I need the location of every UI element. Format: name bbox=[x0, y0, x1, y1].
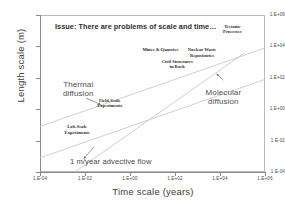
y-tick-2 bbox=[36, 78, 40, 79]
y-tick-label-3: 1.E+00 bbox=[251, 106, 285, 112]
y-tick-0 bbox=[36, 15, 40, 16]
y-tick-label-5: 1.E-04 bbox=[251, 169, 285, 175]
annotation-tectonic-processes: Tectonic Processes bbox=[206, 24, 258, 34]
annotation-1-m-year-advective-flow: 1 m/year advective flow bbox=[70, 157, 152, 166]
x-tick-label-3: 1.E+02 bbox=[155, 176, 195, 182]
y-axis-line bbox=[40, 15, 41, 173]
y-tick-3 bbox=[36, 109, 40, 110]
x-tick-label-1: 1.E-02 bbox=[65, 176, 105, 182]
chart-title: Issue: There are problems of scale and t… bbox=[55, 22, 217, 31]
annotation-molecular-diffusion: Molecular diffusion bbox=[195, 88, 251, 106]
chart-figure: 1.E+061.E+041.E+021.E+001.E-021.E-04 1.E… bbox=[0, 0, 285, 203]
y-tick-4 bbox=[36, 141, 40, 142]
x-axis-line bbox=[40, 172, 266, 173]
annotation-lab-scale-experiments: Lab-Scale Experiments bbox=[51, 124, 103, 134]
y-tick-label-4: 1.E-02 bbox=[251, 138, 285, 144]
y-tick-label-0: 1.E+06 bbox=[251, 12, 285, 18]
y-tick-1 bbox=[36, 46, 40, 47]
annotation-field-scale-experiments: Field-Scale Experiments bbox=[84, 98, 136, 108]
y-tick-label-1: 1.E+04 bbox=[251, 43, 285, 49]
annotation-thermal-diffusion: Thermal diffusion bbox=[50, 80, 106, 98]
annotation-mines-quarries: Mines & Quarries bbox=[134, 47, 186, 52]
y-axis-title: Length scale (m) bbox=[15, 16, 26, 116]
y-tick-label-2: 1.E+02 bbox=[251, 75, 285, 81]
x-tick-label-5: 1.E+06 bbox=[245, 176, 285, 182]
x-tick-label-0: 1.E-04 bbox=[20, 176, 60, 182]
annotation-civil-structures-in-rock: Civil Structures in Rock bbox=[151, 59, 203, 69]
x-tick-label-4: 1.E+04 bbox=[200, 176, 240, 182]
x-tick-label-2: 1.E+00 bbox=[110, 176, 150, 182]
x-axis-title: Time scale (years) bbox=[40, 186, 266, 197]
